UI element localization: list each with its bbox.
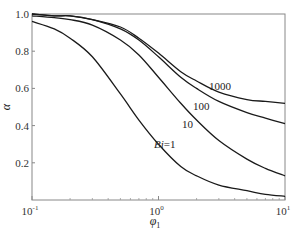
x-axis-title-subscript: 1 bbox=[156, 221, 160, 230]
curve-labels: Bi=1101001000 bbox=[154, 80, 232, 150]
y-tick-label: 0.2 bbox=[15, 157, 29, 169]
curve-label: Bi=1 bbox=[154, 138, 176, 150]
curve-bi-1000 bbox=[32, 14, 285, 103]
curve-label: 1000 bbox=[209, 80, 232, 92]
curve-bi-100 bbox=[32, 14, 285, 124]
y-tick-label: 0.6 bbox=[15, 82, 29, 94]
plot-frame bbox=[32, 14, 285, 200]
y-axis-title: α bbox=[0, 103, 13, 110]
x-tick-label: 10-1 bbox=[22, 204, 39, 217]
chart: 0.20.40.60.81.0 10-1100101 Bi=1101001000… bbox=[0, 0, 297, 234]
curve-bi-10 bbox=[32, 16, 285, 176]
curve-label: 100 bbox=[193, 100, 210, 112]
curves bbox=[32, 14, 285, 196]
x-tick-label: 101 bbox=[276, 204, 291, 217]
y-tick-label: 0.4 bbox=[15, 120, 29, 132]
curve-label: 10 bbox=[182, 118, 194, 130]
y-tick-label: 0.8 bbox=[15, 45, 29, 57]
y-tick-label: 1.0 bbox=[15, 8, 29, 20]
curve-bi-1 bbox=[32, 21, 285, 196]
